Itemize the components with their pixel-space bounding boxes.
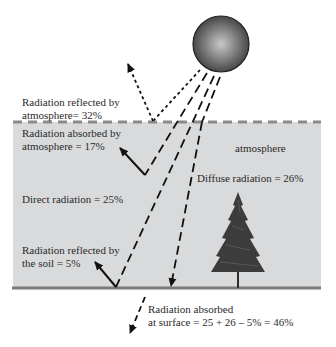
label-direct-radiation: Direct radiation = 25% [22, 193, 123, 206]
sun-icon [193, 16, 249, 72]
label-reflected-soil: Radiation reflected by the soil = 5% [22, 244, 120, 270]
reflected-atmosphere-arrow [128, 64, 200, 121]
label-absorbed-atmosphere: Radiation absorbed by atmosphere = 17% [22, 127, 121, 153]
label-absorbed-atmosphere-line2: atmosphere = 17% [22, 140, 121, 153]
label-reflected-atmosphere: Radiation reflected by atmosphere= 32% [22, 96, 120, 122]
label-absorbed-atmosphere-line1: Radiation absorbed by [22, 127, 121, 140]
label-reflected-atmosphere-line1: Radiation reflected by [22, 96, 120, 109]
label-reflected-soil-line2: the soil = 5% [22, 257, 120, 270]
absorbed-surface-arrow [130, 297, 145, 333]
label-reflected-soil-line1: Radiation reflected by [22, 244, 120, 257]
label-reflected-atmosphere-line2: atmosphere= 32% [22, 109, 120, 122]
label-atmosphere: atmosphere [235, 142, 286, 155]
radiation-diagram: Radiation reflected by atmosphere= 32% R… [0, 0, 336, 347]
label-absorbed-surface: Radiation absorbed at surface = 25 + 26 … [148, 303, 293, 329]
label-diffuse-radiation: Diffuse radiation = 26% [197, 172, 304, 185]
label-absorbed-surface-line2: at surface = 25 + 26 – 5% = 46% [148, 316, 293, 329]
label-absorbed-surface-line1: Radiation absorbed [148, 303, 293, 316]
